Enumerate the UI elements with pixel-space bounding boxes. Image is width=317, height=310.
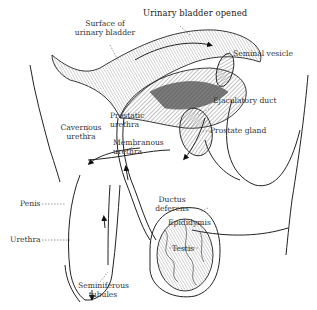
testis — [157, 219, 213, 291]
label-prostate-gland: Prostate gland — [210, 127, 266, 136]
label-seminal-vesicle: Seminal vesicle — [233, 50, 293, 59]
label-membranous-urethra: Membranous urethra — [113, 139, 164, 156]
label-line: urethra — [113, 148, 164, 157]
label-epididymis: Epididymis — [168, 219, 211, 228]
label-line: urethra — [56, 133, 106, 142]
label-penis: Penis — [20, 200, 40, 209]
label-ejaculatory-duct: Ejaculatory duct — [213, 97, 277, 106]
label-line: urinary bladder — [70, 29, 140, 38]
label-ductus-deferens: Ductus deferens — [152, 196, 192, 213]
label-line: tubules — [78, 291, 128, 300]
label-seminiferous-tubules: Seminiferous tubules — [78, 282, 128, 299]
label-cavernous-urethra: Cavernous urethra — [56, 124, 106, 141]
label-urinary-bladder-opened: Urinary bladder opened — [143, 9, 247, 18]
label-prostatic-urethra: Prostatic urethra — [110, 112, 145, 129]
label-surface-of-urinary-bladder: Surface of urinary bladder — [70, 20, 140, 37]
label-line: urethra — [110, 121, 145, 130]
label-urethra: Urethra — [10, 236, 41, 245]
label-line: deferens — [152, 205, 192, 214]
label-testis: Testis — [172, 245, 194, 254]
